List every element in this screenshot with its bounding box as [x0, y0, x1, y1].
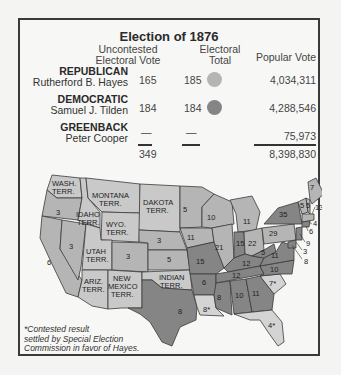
contested-footnote: *Contested result settled by Special Ele… — [24, 325, 139, 354]
svg-text:4*: 4* — [268, 321, 275, 330]
svg-text:TERR.: TERR. — [146, 206, 169, 215]
svg-text:7*: 7* — [269, 279, 276, 288]
michigan — [230, 196, 260, 232]
svg-text:6: 6 — [309, 227, 313, 236]
svg-text:22: 22 — [248, 239, 256, 248]
svg-text:10: 10 — [207, 213, 215, 222]
svg-text:3: 3 — [126, 252, 130, 261]
svg-text:10: 10 — [235, 291, 243, 300]
svg-text:10: 10 — [270, 265, 278, 274]
svg-text:11: 11 — [252, 289, 260, 298]
svg-text:5: 5 — [261, 248, 265, 257]
svg-text:3: 3 — [157, 236, 161, 245]
svg-text:7: 7 — [310, 183, 314, 192]
svg-text:6: 6 — [47, 258, 51, 267]
svg-text:TERR.: TERR. — [160, 281, 183, 290]
svg-text:6: 6 — [202, 278, 206, 287]
svg-text:8: 8 — [217, 293, 221, 302]
svg-text:5: 5 — [306, 201, 310, 210]
svg-text:4: 4 — [313, 219, 317, 228]
svg-text:3: 3 — [303, 247, 307, 256]
svg-text:21: 21 — [215, 243, 223, 252]
svg-text:15: 15 — [196, 257, 204, 266]
svg-text:5: 5 — [183, 205, 187, 214]
svg-text:12: 12 — [232, 271, 240, 280]
svg-text:8: 8 — [304, 257, 308, 266]
svg-text:3: 3 — [56, 208, 60, 217]
svg-text:5: 5 — [300, 201, 304, 210]
svg-text:TERR.: TERR. — [86, 255, 109, 264]
us-electoral-map: WASH.TERR. MONTANATERR. DAKOTATERR. IDAH… — [20, 20, 322, 358]
svg-text:TERR.: TERR. — [111, 290, 134, 299]
svg-text:11: 11 — [187, 233, 195, 242]
svg-text:5: 5 — [167, 255, 171, 264]
svg-text:8*: 8* — [203, 305, 210, 314]
svg-text:29: 29 — [269, 229, 277, 238]
svg-text:TERR.: TERR. — [52, 187, 75, 196]
svg-text:11: 11 — [243, 217, 251, 226]
svg-text:11: 11 — [271, 251, 279, 260]
svg-text:35: 35 — [279, 210, 287, 219]
svg-text:TERR.: TERR. — [82, 285, 105, 294]
svg-text:13: 13 — [315, 203, 322, 212]
svg-text:3: 3 — [69, 242, 73, 251]
svg-text:TERR.: TERR. — [106, 228, 129, 237]
new-jersey — [296, 227, 302, 240]
svg-text:15: 15 — [236, 239, 244, 248]
election-1876-panel: Election of 1876 Uncontested Electoral V… — [18, 18, 320, 356]
svg-text:8: 8 — [178, 307, 182, 316]
svg-text:TERR.: TERR. — [99, 199, 122, 208]
svg-text:TERR.: TERR. — [77, 218, 100, 227]
florida — [234, 310, 284, 346]
svg-text:12: 12 — [242, 259, 250, 268]
